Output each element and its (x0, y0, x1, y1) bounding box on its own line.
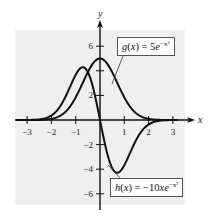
h-equation-label: h(x) = −10xe−x² (110, 178, 183, 197)
y-tick-label: −6 (83, 189, 93, 199)
x-tick-label: 1 (122, 127, 127, 137)
x-tick-label: −1 (71, 127, 81, 137)
x-tick-label: −2 (47, 127, 57, 137)
x-axis-label: x (197, 114, 203, 125)
x-tick-label: −3 (22, 127, 32, 137)
h-fn-name: h (115, 182, 120, 193)
y-tick-label: −2 (83, 140, 93, 150)
g-equation-label: g(x) = 5e−x² (117, 37, 175, 56)
x-tick-label: 2 (146, 127, 151, 137)
y-tick-label: 2 (89, 90, 94, 100)
g-exponent: −x² (160, 40, 170, 48)
y-tick-label: −4 (83, 164, 93, 174)
h-rest: ) = −10 (128, 182, 159, 193)
h-exponent: −x² (169, 181, 179, 189)
g-rest: ) = 5 (135, 41, 155, 52)
x-tick-label: 3 (171, 127, 176, 137)
g-fn-name: g (122, 41, 127, 52)
y-axis-label: y (97, 8, 103, 19)
y-tick-label: 6 (89, 41, 94, 51)
